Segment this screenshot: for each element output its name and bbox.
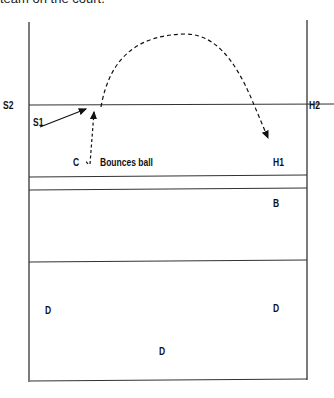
label-bounces-ball: Bounces ball <box>100 157 153 168</box>
label-h2: H2 <box>309 100 320 111</box>
label-d-center: D <box>159 346 165 357</box>
label-d-left: D <box>45 305 51 316</box>
lob-dashed-arc <box>101 34 268 138</box>
bounce-dashed-arrow <box>85 112 94 164</box>
label-s2: S2 <box>3 100 13 111</box>
line-176 <box>29 175 307 177</box>
label-b: B <box>273 198 279 209</box>
centre-line <box>29 260 307 262</box>
label-s1: S1 <box>33 117 43 128</box>
bottom-line <box>30 379 307 381</box>
s1-pass-arrow <box>40 109 86 127</box>
court-diagram <box>0 0 334 398</box>
label-c: C <box>73 157 79 168</box>
back-line <box>29 104 334 105</box>
line-189 <box>29 188 307 190</box>
label-h1: H1 <box>273 157 284 168</box>
label-d-right: D <box>273 303 279 314</box>
